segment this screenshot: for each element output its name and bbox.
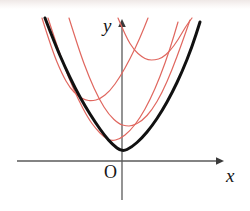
origin-label: O (104, 163, 117, 181)
x-axis-label: x (226, 166, 234, 185)
x-axis-arrowhead (216, 157, 224, 165)
family-parabola-4 (118, 18, 192, 60)
y-axis-label: y (103, 16, 111, 35)
plot-canvas (0, 0, 250, 211)
family-parabola-3 (42, 18, 148, 101)
parabola-figure: y x O (0, 0, 250, 211)
family-curves-group (42, 18, 192, 140)
family-parabola-1 (48, 18, 178, 140)
